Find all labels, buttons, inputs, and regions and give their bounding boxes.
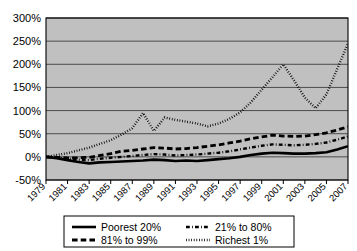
- xtick-label: 2001: [262, 181, 285, 204]
- xtick-label: 1987: [111, 181, 134, 204]
- ytick-label: 200%: [13, 58, 41, 70]
- ytick-label: 300%: [13, 12, 41, 24]
- chart-container: 300%250%200%150%100%50%0%-50% 1979198119…: [0, 0, 357, 251]
- xtick-label: 1981: [46, 181, 69, 204]
- legend-group: Poorest 20%21% to 80%81% to 99%Richest 1…: [64, 216, 294, 247]
- xtick-label: 1985: [89, 181, 112, 204]
- legend-label: 81% to 99%: [101, 234, 158, 246]
- xtick-label: 1993: [176, 181, 199, 204]
- ytick-label: 250%: [13, 35, 41, 47]
- xtick-label: 1991: [154, 181, 177, 204]
- ytick-labels-group: 300%250%200%150%100%50%0%-50%: [13, 12, 41, 186]
- ytick-label: 0%: [25, 151, 41, 163]
- xtick-label: 1983: [68, 181, 91, 204]
- xtick-label: 2003: [284, 181, 307, 204]
- ytick-label: 150%: [13, 81, 41, 93]
- xtick-label: 2007: [327, 181, 350, 204]
- ytick-label: 50%: [19, 128, 41, 140]
- ytick-label: 100%: [13, 105, 41, 117]
- xtick-labels-group: 1979198119831985198719891991199319951997…: [25, 181, 350, 204]
- xtick-label: 1995: [197, 181, 220, 204]
- xtick-label: 1989: [133, 181, 156, 204]
- line-chart: 300%250%200%150%100%50%0%-50% 1979198119…: [0, 0, 357, 251]
- xtick-label: 1999: [240, 181, 263, 204]
- legend-label: Poorest 20%: [101, 221, 161, 233]
- legend-label: 21% to 80%: [215, 221, 272, 233]
- legend-label: Richest 1%: [215, 234, 268, 246]
- xtick-label: 1997: [219, 181, 242, 204]
- xtick-label: 2005: [305, 181, 328, 204]
